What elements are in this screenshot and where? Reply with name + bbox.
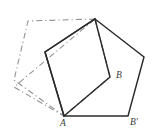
dashed-square <box>14 19 110 116</box>
vertex-label-b-prime: B' <box>130 118 138 128</box>
vertex-label-b: B <box>116 71 122 81</box>
dashed-pentagon <box>14 19 110 116</box>
vertex-label-a: A <box>60 119 66 129</box>
solid-square <box>45 19 110 116</box>
geometry-figure: B A B' <box>0 0 155 137</box>
